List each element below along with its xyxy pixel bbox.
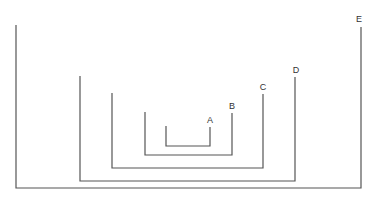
label-e: E <box>356 14 362 24</box>
label-a: A <box>207 115 213 125</box>
nested-brackets-diagram: A B C D E <box>0 0 378 201</box>
label-d: D <box>293 65 300 75</box>
label-b: B <box>229 101 235 111</box>
labels-group: A B C D E <box>207 14 362 125</box>
brackets-group <box>16 25 361 188</box>
bracket-b <box>145 112 232 155</box>
label-c: C <box>260 82 267 92</box>
bracket-c <box>112 93 263 168</box>
bracket-a <box>166 126 210 146</box>
bracket-e <box>16 25 361 188</box>
